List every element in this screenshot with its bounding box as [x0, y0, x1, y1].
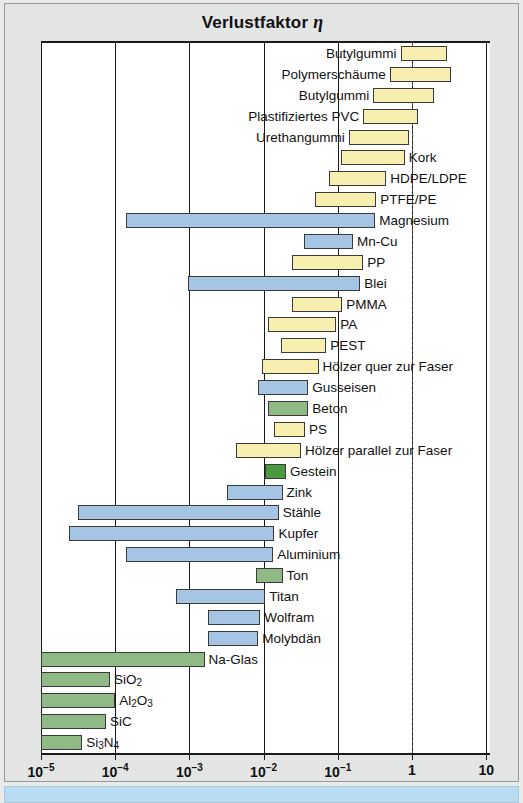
- bar-wolfram: [208, 610, 260, 625]
- bottom-color-strip: [4, 786, 519, 803]
- bar-label: Kupfer: [278, 524, 318, 543]
- bar-row: PMMA: [41, 294, 490, 316]
- bar-label: Titan: [269, 587, 299, 606]
- tick-label-3: 10−2: [250, 762, 277, 780]
- bar-label: PEST: [330, 336, 365, 355]
- bar-label: Molybdän: [262, 629, 321, 648]
- bar-butylgummi: [373, 88, 434, 103]
- bar-zink: [227, 485, 283, 500]
- bar-row: Hölzer parallel zur Faser: [41, 440, 490, 462]
- bar-st-hle: [78, 505, 278, 520]
- bar-row: Mn-Cu: [41, 231, 490, 253]
- bar-row: SiO2: [41, 669, 490, 691]
- bar-label: PP: [367, 253, 385, 272]
- bar-row: PEST: [41, 335, 490, 357]
- bar-label: Gestein: [290, 462, 337, 481]
- bar-label: Ton: [287, 566, 309, 585]
- bar-blei: [188, 276, 360, 291]
- eta-symbol: η: [313, 12, 323, 32]
- bar-row: Gestein: [41, 461, 490, 483]
- bar-label: Gusseisen: [312, 378, 376, 397]
- bar-kupfer: [69, 526, 274, 541]
- plot-area: ButylgummiPolymerschäumeButylgummiPlasti…: [41, 41, 490, 755]
- bar-row: Stähle: [41, 502, 490, 524]
- bar-label: Wolfram: [264, 608, 314, 627]
- bar-row: PS: [41, 419, 490, 441]
- bar-label: SiO2: [114, 670, 142, 692]
- bar-h-lzer-quer-zur-faser: [262, 359, 319, 374]
- bar-aluminium: [126, 547, 273, 562]
- bar-ps: [274, 422, 304, 437]
- bar-row: PTFE/PE: [41, 189, 490, 211]
- tick-mark-4: [338, 753, 339, 760]
- bar-label: Aluminium: [277, 545, 340, 564]
- bar-label: Na-Glas: [209, 650, 259, 669]
- bar-row: Kupfer: [41, 523, 490, 545]
- bar-row: Butylgummi: [41, 43, 490, 65]
- tick-mark-0: [41, 753, 42, 760]
- bar-label: Mn-Cu: [357, 232, 398, 251]
- bar-row: Titan: [41, 586, 490, 608]
- bar-plastifiziertes-pvc: [363, 109, 418, 124]
- bar-row: HDPE/LDPE: [41, 168, 490, 190]
- bar-na-glas: [41, 652, 205, 667]
- bar-pest: [281, 338, 327, 353]
- figure-page: Verlustfaktor η ButylgummiPolymerschäume…: [0, 0, 523, 803]
- bar-label: Zink: [287, 483, 313, 502]
- bar-label: Si3N4: [86, 733, 119, 755]
- tick-mark-5: [412, 753, 413, 760]
- bar-row: Si3N4: [41, 732, 490, 754]
- bar-label: HDPE/LDPE: [390, 169, 467, 188]
- bar-molybd-n: [208, 631, 258, 646]
- bar-row: Plastifiziertes PVC: [41, 106, 490, 128]
- chart-title: Verlustfaktor η: [5, 12, 520, 33]
- bar-label: PTFE/PE: [380, 190, 436, 209]
- bar-label: Butylgummi: [326, 44, 397, 63]
- bar-label: Hölzer parallel zur Faser: [305, 441, 452, 460]
- bar-row: Blei: [41, 273, 490, 295]
- bar-row: SiC: [41, 711, 490, 733]
- bar-row: Ton: [41, 565, 490, 587]
- bar-label: Al2O3: [119, 691, 153, 713]
- bar-titan: [176, 589, 266, 604]
- bar-label: PA: [340, 315, 357, 334]
- bar-row: PP: [41, 252, 490, 274]
- x-axis: 10−510−410−310−210−1110: [5, 753, 520, 781]
- bar-row: Magnesium: [41, 210, 490, 232]
- bar-ton: [256, 568, 282, 583]
- chart-title-text: Verlustfaktor: [202, 13, 309, 32]
- bar-mn-cu: [304, 234, 353, 249]
- bar-polymersch-ume: [390, 67, 452, 82]
- tick-label-0: 10−5: [28, 762, 55, 780]
- bar-sio: [41, 672, 110, 687]
- tick-mark-1: [115, 753, 116, 760]
- bar-label: Blei: [364, 274, 387, 293]
- bar-row: Zink: [41, 482, 490, 504]
- tick-label-5: 1: [408, 762, 416, 778]
- bar-butylgummi: [401, 46, 448, 61]
- bar-label: PS: [309, 420, 327, 439]
- bar-kork: [341, 150, 405, 165]
- bar-row: Beton: [41, 398, 490, 420]
- figure-frame: Verlustfaktor η ButylgummiPolymerschäume…: [4, 3, 519, 782]
- bar-h-lzer-parallel-zur-faser: [236, 443, 301, 458]
- bar-row: Molybdän: [41, 628, 490, 650]
- bar-label: Urethangummi: [256, 128, 345, 147]
- bar-label: Stähle: [283, 503, 321, 522]
- bar-row: Hölzer quer zur Faser: [41, 356, 490, 378]
- tick-mark-3: [264, 753, 265, 760]
- bar-magnesium: [126, 213, 375, 228]
- bar-label: Butylgummi: [299, 86, 370, 105]
- bar-row: Wolfram: [41, 607, 490, 629]
- bar-pmma: [292, 297, 342, 312]
- bar-row: Polymerschäume: [41, 64, 490, 86]
- bar-gusseisen: [258, 380, 308, 395]
- bar-label: Hölzer quer zur Faser: [323, 357, 454, 376]
- tick-label-4: 10−1: [324, 762, 351, 780]
- bar-row: Butylgummi: [41, 85, 490, 107]
- tick-mark-2: [189, 753, 190, 760]
- bar-label: Plastifiziertes PVC: [248, 107, 359, 126]
- bar-label: PMMA: [346, 295, 387, 314]
- bar-row: Na-Glas: [41, 649, 490, 671]
- tick-label-1: 10−4: [102, 762, 129, 780]
